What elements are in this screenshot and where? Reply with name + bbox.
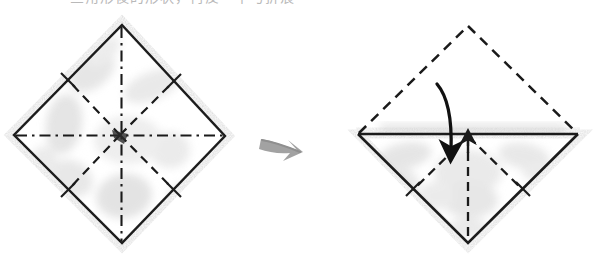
right-fold-smudge [380, 124, 566, 133]
origami-fold-diagram [0, 0, 598, 260]
